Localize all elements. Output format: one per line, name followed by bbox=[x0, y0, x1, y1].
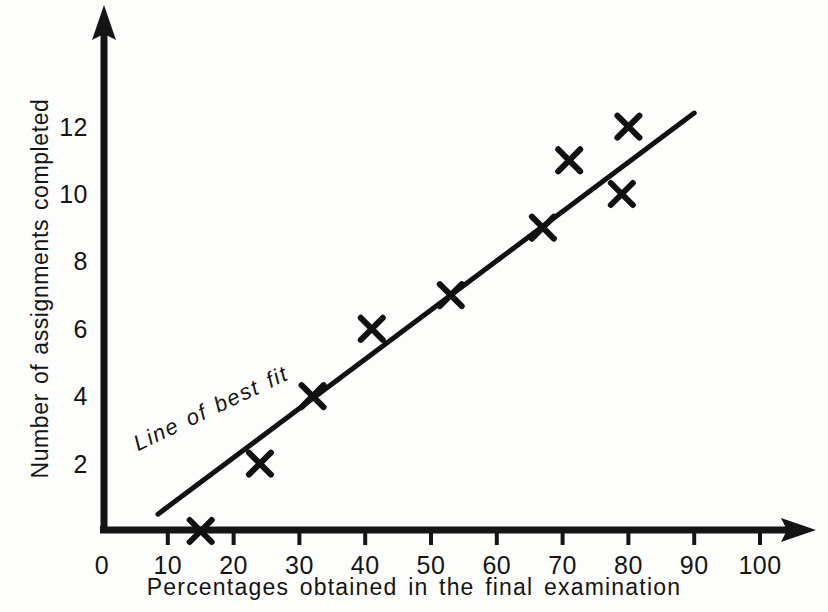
data-point-marker bbox=[302, 385, 324, 407]
data-point-marker bbox=[361, 318, 383, 340]
data-point-marker bbox=[532, 217, 554, 239]
line-of-best-fit bbox=[158, 113, 694, 514]
data-point-markers bbox=[190, 116, 640, 542]
x-axis-title: Percentages obtained in the final examin… bbox=[0, 574, 828, 601]
plot-canvas bbox=[0, 0, 828, 612]
data-point-marker bbox=[440, 284, 462, 306]
data-point-marker bbox=[611, 183, 633, 205]
data-point-marker bbox=[558, 149, 580, 171]
y-axis bbox=[92, 5, 116, 530]
x-axis-ticks bbox=[168, 533, 760, 545]
scatter-plot-figure: 0102030405060708090100 24681012 Percenta… bbox=[0, 0, 828, 612]
data-point-marker bbox=[617, 116, 639, 138]
data-point-marker bbox=[249, 453, 271, 475]
y-axis-title: Number of assignments completed bbox=[27, 59, 54, 519]
